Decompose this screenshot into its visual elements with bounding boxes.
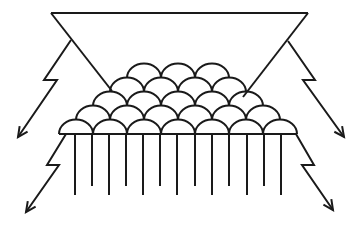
- lightning-arrow-lower-left-icon: [26, 134, 66, 212]
- diagram-canvas: [0, 0, 362, 227]
- scale-arc: [93, 92, 127, 106]
- scale-arc: [59, 120, 93, 134]
- lightning-arrow-upper-right-icon: [288, 41, 344, 137]
- scale-arc: [161, 64, 195, 78]
- scale-arc: [246, 106, 280, 120]
- scale-arc: [127, 92, 161, 106]
- scale-arc: [110, 106, 144, 120]
- scale-arc: [110, 78, 144, 92]
- diagram: [0, 0, 362, 227]
- scale-arc: [127, 64, 161, 78]
- lightning-arrow-lower-right-icon: [296, 134, 333, 210]
- scale-arc: [161, 120, 195, 134]
- scale-arc: [144, 78, 178, 92]
- fringe-lines: [75, 134, 281, 195]
- scale-arc: [195, 92, 229, 106]
- scale-arc: [76, 106, 110, 120]
- scale-arc: [212, 78, 246, 92]
- scale-arc: [144, 106, 178, 120]
- scale-arc: [195, 120, 229, 134]
- triangle-left-edge: [51, 13, 112, 91]
- scale-arc: [93, 120, 127, 134]
- lightning-arrow-upper-left-icon: [18, 40, 71, 137]
- scale-arc: [195, 64, 229, 78]
- scale-arc: [229, 120, 263, 134]
- scale-arc: [178, 106, 212, 120]
- scale-arc: [212, 106, 246, 120]
- scale-arc: [178, 78, 212, 92]
- scale-arc: [127, 120, 161, 134]
- scale-arc: [263, 120, 297, 134]
- scale-arc: [161, 92, 195, 106]
